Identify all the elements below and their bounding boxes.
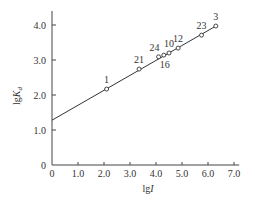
x-tick-label: 3.0	[124, 168, 137, 179]
data-point-marker	[137, 67, 141, 71]
y-tick-label: 4.0	[34, 20, 47, 31]
data-point-marker	[167, 51, 171, 55]
data-point-label: 24	[150, 42, 160, 53]
y-tick-label: 1.0	[34, 125, 47, 136]
x-tick-label: 6.0	[202, 168, 215, 179]
data-point-marker	[176, 46, 180, 50]
data-point-label: 12	[173, 33, 183, 44]
data-point-marker	[105, 87, 109, 91]
axes: 01.02.03.04.05.06.07.001.02.03.04.0	[34, 11, 241, 179]
fit-line	[52, 26, 216, 120]
x-tick-label: 0	[50, 168, 55, 179]
x-tick-label: 7.0	[228, 168, 241, 179]
chart: 01.02.03.04.05.06.07.001.02.03.04.0 1212…	[0, 0, 255, 204]
y-tick-label: 2.0	[34, 90, 47, 101]
y-tick-label: 0	[41, 160, 46, 171]
data-point-label: 3	[213, 11, 218, 22]
data-point-label: 21	[134, 54, 144, 65]
x-tick-label: 2.0	[98, 168, 111, 179]
x-axis-title-var: I	[149, 183, 154, 194]
x-tick-label: 1.0	[72, 168, 85, 179]
y-axis-title-sub: d	[16, 87, 24, 91]
y-axis-title: lgKd	[11, 87, 24, 105]
y-tick-label: 3.0	[34, 55, 47, 66]
fit-line-path	[52, 26, 216, 120]
data-point-marker	[214, 24, 218, 28]
x-axis-title: lgI	[142, 183, 154, 194]
x-axis-title-lg: lg	[142, 183, 150, 194]
data-point-label: 23	[197, 20, 207, 31]
x-tick-label: 5.0	[176, 168, 189, 179]
data-point-label: 16	[160, 59, 170, 70]
data-points: 12124161012233	[104, 11, 218, 91]
y-axis-title-lg: lg	[11, 97, 22, 105]
data-point-marker	[200, 33, 204, 37]
x-tick-label: 4.0	[150, 168, 163, 179]
data-point-marker	[162, 53, 166, 57]
data-point-label: 1	[104, 74, 109, 85]
